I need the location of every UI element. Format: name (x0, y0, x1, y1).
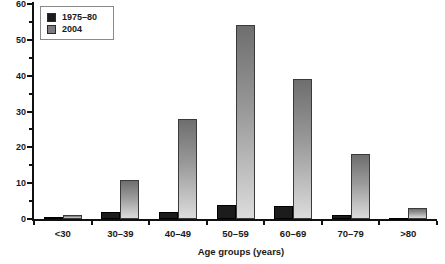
x-boundary-tick (263, 221, 265, 225)
bar-1975-80--80 (389, 218, 408, 220)
bar-1975-80-40-49 (159, 212, 178, 219)
bar-1975-80-30-39 (101, 212, 120, 219)
x-boundary-tick (321, 221, 323, 225)
y-major-tick (27, 3, 32, 5)
x-axis-title: Age groups (years) (176, 246, 306, 257)
bar-2004-60-69 (293, 79, 312, 219)
y-major-tick (27, 39, 32, 41)
bar-1975-80--30 (44, 217, 63, 219)
y-major-tick (27, 75, 32, 77)
x-boundary-tick (378, 221, 380, 225)
bar-1975-80-70-79 (332, 215, 351, 219)
y-major-tick (27, 182, 32, 184)
bar-chart-figure: 0102030405060 <3030–3940–4950–5960–6970–… (0, 0, 445, 264)
y-minor-tick (29, 200, 32, 202)
y-tick-label: 60 (0, 0, 26, 9)
legend-label-2004: 2004 (62, 24, 82, 35)
y-tick-label: 10 (0, 178, 26, 188)
bar-2004-50-59 (236, 25, 255, 219)
x-boundary-tick (91, 221, 93, 225)
x-category-label: 40–49 (151, 228, 205, 239)
legend-item-1975-80: 1975–80 (47, 12, 113, 23)
x-boundary-tick (33, 221, 35, 225)
legend-swatch-1975-80 (47, 13, 56, 22)
legend-item-2004: 2004 (47, 24, 113, 35)
y-major-tick (27, 146, 32, 148)
y-major-tick (27, 111, 32, 113)
bar-2004-30-39 (120, 180, 139, 219)
x-category-label: >80 (381, 228, 435, 239)
y-minor-tick (29, 93, 32, 95)
y-minor-tick (29, 21, 32, 23)
legend: 1975–80 2004 (40, 6, 114, 40)
y-tick-label: 40 (0, 71, 26, 81)
bar-1975-80-60-69 (274, 206, 293, 219)
legend-label-1975-80: 1975–80 (62, 12, 97, 23)
x-category-label: 60–69 (266, 228, 320, 239)
x-category-label: 30–39 (93, 228, 147, 239)
bar-2004--30 (63, 215, 82, 219)
y-minor-tick (29, 128, 32, 130)
x-category-label: 70–79 (324, 228, 378, 239)
y-tick-label: 50 (0, 35, 26, 45)
y-tick-label: 0 (0, 214, 26, 224)
bar-2004-70-79 (351, 154, 370, 219)
y-tick-label: 30 (0, 107, 26, 117)
x-boundary-tick (206, 221, 208, 225)
x-boundary-tick (148, 221, 150, 225)
y-axis-line (32, 2, 34, 221)
x-category-label: <30 (36, 228, 90, 239)
bar-1975-80-50-59 (217, 205, 236, 219)
bar-2004-40-49 (178, 119, 197, 219)
legend-swatch-2004 (47, 25, 56, 34)
x-category-label: 50–59 (209, 228, 263, 239)
y-tick-label: 20 (0, 142, 26, 152)
bar-2004--80 (408, 208, 427, 219)
y-minor-tick (29, 164, 32, 166)
x-boundary-tick (436, 221, 438, 225)
x-axis-line (32, 219, 437, 221)
y-major-tick (27, 218, 32, 220)
y-minor-tick (29, 57, 32, 59)
